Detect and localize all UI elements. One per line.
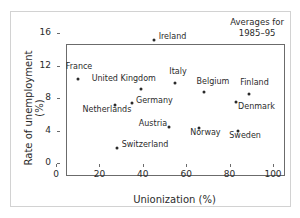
scatter-point-label: United Kingdom [92,74,156,83]
x-tick-mark [186,164,187,167]
y-tick-label: 16 [31,28,51,37]
scatter-point-label: Finland [240,78,269,87]
scatter-point-label: Italy [169,67,186,76]
scatter-point-label: Austria [139,119,167,128]
scatter-point [248,92,251,95]
x-tick-mark [99,164,100,167]
scatter-point [76,77,79,80]
scatter-point-label: Germany [136,96,173,105]
scatter-point [174,81,177,84]
scatter-point-label: Netherlands [83,105,132,114]
x-tick-mark [273,164,274,167]
x-tick-label: 60 [174,170,198,179]
y-tick-mark [57,66,60,67]
y-tick-label: 0 [31,158,51,167]
scatter-point-label: France [66,62,93,71]
y-tick-mark [57,33,60,34]
y-tick-mark [57,163,60,164]
x-tick-label: 80 [218,170,242,179]
x-tick-label: 100 [261,170,285,179]
annotation-line-1: Averages for [230,17,284,28]
y-tick-label: 4 [31,126,51,135]
y-tick-label: 8 [31,93,51,102]
x-tick-label: 20 [87,170,111,179]
scatter-point-label: Norway [190,128,220,137]
chart-annotation: Averages for 1985–95 [230,17,284,39]
annotation-line-2: 1985–95 [230,28,284,39]
x-tick-mark [143,164,144,167]
scatter-point [115,146,118,149]
x-tick-label: 40 [131,170,155,179]
x-tick-mark [56,164,57,167]
scatter-point [152,38,155,41]
scatter-point-label: Sweden [229,131,261,140]
scatter-point [202,90,205,93]
x-axis-label: Unionization (%) [66,194,283,205]
y-tick-mark [57,131,60,132]
x-tick-label: 0 [44,170,68,179]
figure-frame: Averages for 1985–95 Rate of unemploymen… [10,11,291,207]
x-tick-mark [230,164,231,167]
scatter-point [167,126,170,129]
y-tick-mark [57,98,60,99]
scatter-point [139,88,142,91]
scatter-point [130,101,133,104]
scatter-point-label: Belgium [197,77,230,86]
scatter-point-label: Switzerland [122,140,169,149]
y-tick-label: 12 [31,61,51,70]
scatter-point-label: Denmark [238,102,275,111]
scatter-point-label: Ireland [159,32,187,41]
